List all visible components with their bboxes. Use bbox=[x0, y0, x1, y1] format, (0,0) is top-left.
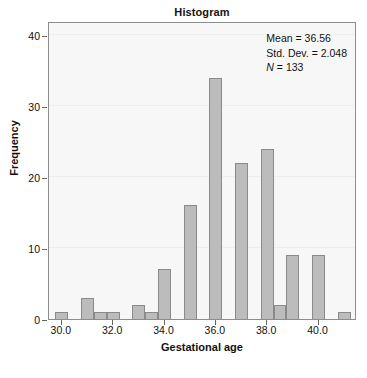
histogram-bar bbox=[145, 312, 158, 319]
y-tick-label: 30 bbox=[0, 101, 40, 113]
histogram-bar bbox=[94, 312, 107, 319]
y-tick-label: 10 bbox=[0, 243, 40, 255]
y-tick-label: 40 bbox=[0, 30, 40, 42]
x-tick-label: 38.0 bbox=[246, 324, 286, 336]
stat-n-value: = 133 bbox=[274, 61, 304, 73]
x-tick-label: 34.0 bbox=[144, 324, 184, 336]
y-tick-mark bbox=[42, 178, 47, 179]
histogram-bar bbox=[286, 255, 299, 319]
histogram-bar bbox=[338, 312, 351, 319]
chart-title: Histogram bbox=[48, 6, 356, 18]
histogram-bar bbox=[274, 305, 287, 319]
y-tick-mark bbox=[42, 36, 47, 37]
gridline bbox=[49, 105, 355, 106]
histogram-bar bbox=[158, 269, 171, 319]
x-tick-label: 40.0 bbox=[298, 324, 338, 336]
histogram-bar bbox=[312, 255, 325, 319]
gridline bbox=[49, 247, 355, 248]
gridline bbox=[49, 176, 355, 177]
x-tick-label: 32.0 bbox=[92, 324, 132, 336]
x-axis-title: Gestational age bbox=[48, 341, 356, 353]
histogram-figure: Histogram Frequency 010203040 Mean = 36.… bbox=[0, 0, 367, 378]
histogram-bar bbox=[81, 298, 94, 319]
plot-area: Mean = 36.56 Std. Dev. = 2.048 N = 133 bbox=[48, 22, 356, 320]
y-tick-mark bbox=[42, 107, 47, 108]
stats-annotation: Mean = 36.56 Std. Dev. = 2.048 N = 133 bbox=[266, 31, 347, 75]
x-tick-label: 36.0 bbox=[195, 324, 235, 336]
histogram-bar bbox=[261, 149, 274, 319]
histogram-bar bbox=[132, 305, 145, 319]
histogram-bar bbox=[209, 78, 222, 319]
histogram-bar bbox=[235, 163, 248, 319]
stat-mean: Mean = 36.56 bbox=[266, 31, 347, 46]
histogram-bar bbox=[107, 312, 120, 319]
x-tick-label: 30.0 bbox=[41, 324, 81, 336]
y-tick-mark bbox=[42, 320, 47, 321]
y-tick-label: 0 bbox=[0, 314, 40, 326]
stat-n-symbol: N bbox=[266, 61, 274, 73]
histogram-bar bbox=[184, 205, 197, 319]
stat-n: N = 133 bbox=[266, 60, 347, 75]
stat-std-dev: Std. Dev. = 2.048 bbox=[266, 46, 347, 61]
y-tick-label: 20 bbox=[0, 172, 40, 184]
histogram-bar bbox=[55, 312, 68, 319]
y-tick-mark bbox=[42, 249, 47, 250]
